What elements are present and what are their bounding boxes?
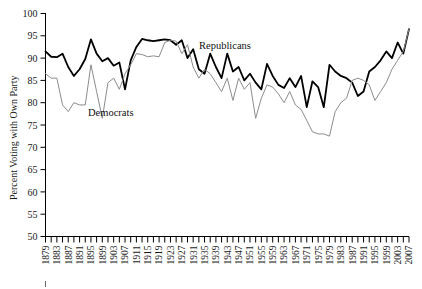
y-tick-label: 95 [28, 30, 38, 41]
y-axis-ticks: 50556065707580859095100 [23, 8, 46, 242]
x-tick-label: 1879 [41, 245, 51, 264]
y-tick-label: 100 [23, 8, 38, 19]
x-tick-label: 2003 [393, 245, 403, 264]
y-tick-label: 70 [28, 142, 38, 153]
x-tick-label: 1895 [86, 245, 96, 264]
x-tick-label: 1887 [64, 245, 74, 264]
y-axis-title-group: Percent Voting with Own Party [8, 75, 19, 200]
y-tick-label: 85 [28, 75, 38, 86]
x-tick-label: 1991 [359, 245, 369, 264]
x-tick-label: 1923 [166, 245, 176, 264]
x-tick-label: 1955 [257, 245, 267, 264]
x-tick-label: 1907 [120, 245, 130, 264]
chart-container: Percent Voting with Own Party 5055606570… [0, 0, 422, 289]
y-tick-label: 90 [28, 53, 38, 64]
x-tick-label: 1963 [279, 245, 289, 264]
x-tick-label: 1911 [132, 245, 142, 264]
party-unity-line-chart: Percent Voting with Own Party 5055606570… [0, 0, 422, 289]
x-tick-label: 1891 [75, 245, 85, 264]
x-tick-label: 1999 [382, 245, 392, 264]
x-tick-label: 1943 [223, 245, 233, 264]
x-tick-label: 1935 [200, 245, 210, 264]
x-tick-label: 1959 [268, 245, 278, 264]
x-tick-label: 1947 [234, 245, 244, 264]
x-tick-label: 1927 [177, 245, 187, 264]
y-tick-label: 80 [28, 97, 38, 108]
x-tick-label: 1967 [291, 245, 301, 264]
x-tick-label: 1919 [154, 245, 164, 264]
x-tick-label: 1883 [52, 245, 62, 264]
x-tick-label: 1939 [211, 245, 221, 264]
x-axis-ticks: 1879188318871891189518991903190719111915… [41, 237, 415, 265]
y-axis-title: Percent Voting with Own Party [8, 75, 19, 200]
y-tick-label: 50 [28, 231, 38, 242]
x-tick-label: 1979 [325, 245, 335, 264]
x-tick-label: 1983 [336, 245, 346, 264]
y-tick-label: 55 [28, 209, 38, 220]
x-tick-label: 1903 [109, 245, 119, 264]
x-tick-label: 1931 [189, 245, 199, 264]
x-tick-label: 1915 [143, 245, 153, 264]
republicans-series-label: Republicans [199, 40, 251, 51]
x-tick-label: 1995 [370, 245, 380, 264]
x-tick-label: 1987 [348, 245, 358, 264]
y-tick-label: 65 [28, 164, 38, 175]
y-tick-label: 60 [28, 187, 38, 198]
x-tick-label: 1899 [98, 245, 108, 264]
x-tick-label: 1975 [314, 245, 324, 264]
x-tick-label: 1951 [245, 245, 255, 264]
x-tick-label: 2007 [404, 245, 414, 264]
x-tick-label: 1971 [302, 245, 312, 264]
democrats-series-label: Democrats [88, 107, 133, 118]
y-tick-label: 75 [28, 120, 38, 131]
